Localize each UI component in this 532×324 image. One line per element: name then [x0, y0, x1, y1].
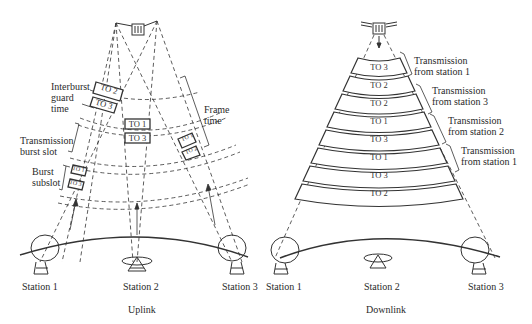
- downlink-station1-label: Station 1: [266, 281, 302, 292]
- burst-slot-label-1: Transmission: [20, 135, 74, 146]
- uplink-station2-label: Station 2: [123, 281, 159, 292]
- transmission-3-line1: Transmission: [448, 115, 502, 126]
- interburst-label-1: Interburst: [51, 81, 90, 92]
- subslot-label-2: subslot: [32, 177, 60, 188]
- uplink-satellite-icon: [116, 21, 157, 35]
- transmission-2-line1: Transmission: [432, 85, 486, 96]
- tdma-diagram: TO 2 TO 3 TO 1 TO 3 TO 1 TO 2 TO 1 TO 3 …: [0, 0, 532, 324]
- subslot-label-1: Burst: [32, 166, 54, 177]
- transmission-4-line1: Transmission: [461, 145, 515, 156]
- transmission-2-line2: from station 3: [432, 96, 488, 107]
- frame-time-label-1: Frame: [204, 104, 230, 115]
- interburst-label-2: guard: [51, 92, 74, 103]
- transmission-4-line2: from station 1: [461, 156, 517, 167]
- transmission-1-line1: Transmission: [414, 55, 468, 66]
- downlink-caption: Downlink: [366, 304, 406, 315]
- downlink-station2-dish-icon: [364, 254, 392, 268]
- uplink-burst-s2-b: TO 3: [125, 133, 150, 143]
- uplink-caption: Uplink: [128, 304, 156, 315]
- downlink-band-4: TO 1: [359, 116, 399, 126]
- downlink-satellite-icon: [361, 22, 397, 48]
- burst-slot-label-2: burst slot: [20, 146, 57, 157]
- downlink-band-3: TO 2: [359, 98, 399, 108]
- transmission-1-line2: from station 1: [414, 66, 470, 77]
- uplink-station3-label: Station 3: [222, 281, 258, 292]
- uplink-station1-label: Station 1: [22, 281, 58, 292]
- downlink-band-6: TO 1: [359, 152, 399, 162]
- frame-time-label-2: time: [204, 115, 222, 126]
- downlink-station3-label: Station 3: [468, 281, 504, 292]
- transmission-3-line2: from station 2: [448, 126, 504, 137]
- downlink-station2-label: Station 2: [364, 281, 400, 292]
- downlink-band-1: TO 3: [359, 62, 399, 72]
- uplink-station1-dish-icon: [31, 235, 59, 274]
- downlink-band-2: TO 2: [359, 80, 399, 90]
- downlink-band-5: TO 3: [359, 134, 399, 144]
- downlink-band-8: TO 2: [359, 188, 399, 198]
- interburst-label-3: time: [51, 103, 69, 114]
- downlink-station3-dish-icon: [461, 237, 489, 274]
- downlink-band-7: TO 3: [359, 170, 399, 180]
- uplink-burst-s2-a: TO 1: [125, 119, 150, 129]
- diagram-lines: [0, 0, 532, 324]
